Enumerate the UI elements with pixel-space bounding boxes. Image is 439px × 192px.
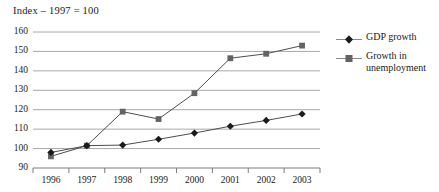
- chart-legend: GDP growth Growth in unemployment: [336, 31, 439, 78]
- legend-marker-square-icon: [336, 51, 362, 64]
- y-axis-tick-label: 90: [2, 162, 28, 172]
- legend-key-gdp-svg: [336, 33, 362, 46]
- series-growth-in-unemployment: [48, 43, 305, 160]
- y-axis-tick-label: 110: [2, 123, 28, 133]
- data-point-marker: [155, 136, 162, 143]
- x-axis-tick-label: 2002: [246, 175, 286, 185]
- legend-label-gdp-growth: GDP growth: [362, 31, 416, 43]
- data-point-marker: [120, 109, 126, 115]
- x-axis-tick-label: 2000: [174, 175, 214, 185]
- data-point-marker: [191, 129, 198, 136]
- legend-item-growth-in-unemployment: Growth in unemployment: [336, 50, 439, 73]
- data-point-marker: [227, 55, 233, 61]
- y-axis-tick-label: 160: [2, 26, 28, 36]
- data-point-marker: [192, 90, 198, 96]
- data-point-marker: [263, 51, 269, 57]
- data-point-marker: [299, 43, 305, 49]
- series-line: [51, 46, 302, 157]
- legend-marker-diamond-icon: [336, 32, 362, 45]
- data-point-marker: [263, 117, 270, 124]
- y-axis-tick-label: 100: [2, 143, 28, 153]
- legend-key-unemployment-svg: [336, 52, 362, 65]
- y-axis-tick-label: 150: [2, 45, 28, 55]
- x-axis-tick-label: 1998: [103, 175, 143, 185]
- data-point-marker: [156, 116, 162, 122]
- data-point-marker: [298, 110, 305, 117]
- chart-figure: Index – 1997 = 100 160150140130120110100…: [0, 0, 439, 192]
- x-axis-tick-label: 1997: [67, 175, 107, 185]
- plot-svg: [0, 0, 439, 192]
- gridlines: [33, 32, 320, 149]
- x-axis-tick-label: 2003: [282, 175, 322, 185]
- x-axis-ticks: [33, 168, 320, 173]
- plot-area: 16015014013012011010090 1996199719981999…: [0, 0, 439, 192]
- legend-item-gdp-growth: GDP growth: [336, 31, 439, 45]
- x-axis-tick-label: 1996: [31, 175, 71, 185]
- y-axis-tick-label: 130: [2, 84, 28, 94]
- legend-label-growth-in-unemployment: Growth in unemployment: [362, 50, 439, 73]
- data-point-marker: [119, 141, 126, 148]
- y-axis-tick-label: 120: [2, 104, 28, 114]
- series-gdp-growth: [47, 110, 305, 156]
- y-axis-tick-label: 140: [2, 65, 28, 75]
- x-axis-tick-label: 2001: [210, 175, 250, 185]
- x-axis-tick-label: 1999: [139, 175, 179, 185]
